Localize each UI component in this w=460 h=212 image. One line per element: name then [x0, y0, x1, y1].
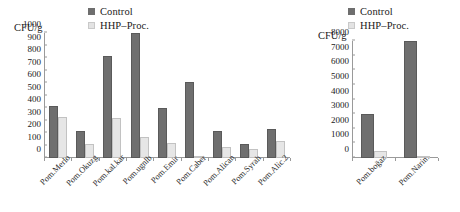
y-tick-label: 5000 [331, 71, 349, 80]
bar-control [267, 129, 276, 158]
y-tick-label: 7000 [331, 42, 349, 51]
y-tick-mark [44, 107, 47, 108]
legend-item-hhp: HHP–Proc. [88, 20, 149, 31]
y-tick-label: 1000 [23, 20, 41, 29]
bar-group [71, 33, 98, 158]
y-tick-label: 200 [28, 120, 42, 129]
bar-group [352, 41, 395, 158]
x-label-cell: Pom.Syrah [235, 160, 262, 161]
y-tick-mark [44, 69, 47, 70]
bar-hhp [58, 117, 67, 158]
y-tick-label: 1000 [331, 130, 349, 139]
x-axis-label: Pom.Narin. [397, 153, 431, 187]
legend-item-hhp: HHP–Proc. [348, 20, 409, 31]
bar-group-container-right [352, 41, 438, 158]
legend-swatch-hhp [348, 22, 355, 29]
y-tick-label: 2000 [331, 115, 349, 124]
bar-group [153, 33, 180, 158]
legend-swatch-control [348, 8, 355, 15]
y-tick-mark [352, 113, 355, 114]
bar-control [404, 41, 417, 158]
y-tick-mark [44, 119, 47, 120]
y-tick-label: 0 [37, 145, 42, 154]
bar-control [103, 56, 112, 159]
y-tick-mark [44, 132, 47, 133]
y-tick-label: 0 [345, 145, 350, 154]
x-axis-label: Pom.boğaz [354, 153, 387, 186]
legend-label-control: Control [360, 6, 393, 17]
legend-left: Control HHP–Proc. [88, 6, 149, 31]
chart-panel-left: Control HHP–Proc. CFU/g 0100200300400500… [0, 0, 310, 212]
x-label-cell: Pom.kal.kar [99, 160, 126, 161]
figure-root: Control HHP–Proc. CFU/g 0100200300400500… [0, 0, 460, 212]
x-label-cell: Pom.Caber [181, 160, 208, 161]
y-tick-mark [44, 44, 47, 45]
bar-control [76, 131, 85, 159]
x-label-cell: Pom.ugnlb [126, 160, 153, 161]
y-tick-label: 500 [28, 82, 42, 91]
bar-control [158, 108, 167, 158]
y-tick-label: 400 [28, 95, 42, 104]
y-tick-mark [352, 83, 355, 84]
bar-control [361, 114, 374, 158]
legend-label-hhp: HHP–Proc. [360, 20, 409, 31]
bar-control [49, 106, 58, 159]
y-tick-mark [352, 69, 355, 70]
bar-group [126, 33, 153, 158]
bar-control [213, 131, 222, 158]
x-label-cell: Pom.Narin. [395, 160, 438, 161]
bar-group-container-left [44, 33, 290, 158]
y-tick-label: 100 [28, 132, 42, 141]
bar-control [240, 144, 249, 158]
x-axis-labels-left: Pom.MerloPom.OkuzgPom.kal.karPom.ugnlbPo… [44, 160, 290, 161]
bar-group [395, 41, 438, 158]
bar-group [181, 33, 208, 158]
x-label-cell: Pom.Okuzg [71, 160, 98, 161]
x-label-cell: Pom.Merlo [44, 160, 71, 161]
bar-group [235, 33, 262, 158]
y-tick-label: 600 [28, 70, 42, 79]
bar-group [263, 33, 290, 158]
y-tick-mark [352, 98, 355, 99]
y-tick-label: 8000 [331, 28, 349, 37]
plot-area-right: 010002000300040005000600070008000 [352, 41, 438, 158]
y-tick-mark [352, 40, 355, 41]
y-tick-mark [44, 32, 47, 33]
bar-control [185, 82, 194, 158]
y-tick-label: 300 [28, 107, 42, 116]
legend-right: Control HHP–Proc. [348, 6, 409, 31]
bar-group [99, 33, 126, 158]
x-label-cell: Pom.boğaz [352, 160, 395, 161]
legend-label-control: Control [100, 6, 133, 17]
y-tick-label: 3000 [331, 101, 349, 110]
x-label-cell: Pom.Emir [153, 160, 180, 161]
y-tick-label: 4000 [331, 86, 349, 95]
y-tick-label: 800 [28, 45, 42, 54]
bar-group [208, 33, 235, 158]
x-tick-mark [438, 158, 439, 161]
chart-panel-right: Control HHP–Proc. CFU/g 0100020003000400… [310, 0, 460, 212]
y-tick-mark [44, 82, 47, 83]
y-tick-mark [352, 142, 355, 143]
y-tick-mark [44, 57, 47, 58]
legend-item-control: Control [348, 6, 409, 17]
x-label-cell: Pom.Alic.2 [263, 160, 290, 161]
bar-group [44, 33, 71, 158]
y-tick-label: 6000 [331, 57, 349, 66]
plot-area-left: 01002003004005006007008009001000 [44, 33, 290, 158]
bar-control [131, 33, 140, 158]
legend-label-hhp: HHP–Proc. [100, 20, 149, 31]
legend-item-control: Control [88, 6, 149, 17]
x-label-cell: Pom.Alican [208, 160, 235, 161]
legend-swatch-hhp [88, 22, 95, 29]
legend-swatch-control [88, 8, 95, 15]
x-axis-labels-right: Pom.boğazPom.Narin. [352, 160, 438, 161]
y-tick-mark [44, 144, 47, 145]
y-tick-label: 900 [28, 32, 42, 41]
y-tick-label: 700 [28, 57, 42, 66]
y-tick-mark [44, 94, 47, 95]
y-tick-mark [352, 54, 355, 55]
y-tick-mark [352, 127, 355, 128]
